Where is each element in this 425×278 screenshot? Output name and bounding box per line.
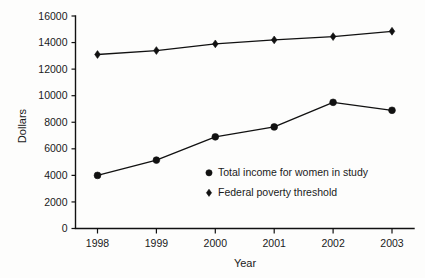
circle-marker xyxy=(206,170,212,176)
y-tick-label: 6000 xyxy=(44,142,68,154)
circle-marker xyxy=(271,123,278,130)
x-tick-label: 1999 xyxy=(145,237,169,249)
diamond-marker xyxy=(95,51,101,59)
y-tick-label: 4000 xyxy=(44,169,68,181)
series-layer xyxy=(94,27,395,178)
y-tick-label: 12000 xyxy=(38,63,67,75)
x-tick-label: 2003 xyxy=(380,237,404,249)
line-chart: 0200040006000800010000120001400016000 19… xyxy=(0,0,425,278)
diamond-marker xyxy=(389,27,395,35)
diamond-marker xyxy=(271,36,277,44)
diamond-marker xyxy=(212,40,218,48)
x-axis-title: Year xyxy=(234,257,257,269)
legend-label: Total income for women in study xyxy=(218,166,369,178)
y-tick-label: 8000 xyxy=(44,116,68,128)
y-axis-title: Dollars xyxy=(16,108,28,143)
x-axis-ticks xyxy=(98,229,393,234)
diamond-marker xyxy=(330,33,336,41)
y-tick-label: 16000 xyxy=(38,10,67,22)
x-axis-tick-labels: 199819992000200120022003 xyxy=(86,237,404,249)
y-axis-tick-labels: 0200040006000800010000120001400016000 xyxy=(38,10,67,235)
circle-marker xyxy=(330,99,337,106)
circle-marker xyxy=(389,107,396,114)
x-tick-label: 2002 xyxy=(321,237,345,249)
diamond-marker xyxy=(154,47,160,55)
circle-marker xyxy=(153,157,160,164)
legend-item: Total income for women in study xyxy=(206,166,369,178)
legend-item: Federal poverty threshold xyxy=(206,186,337,198)
y-tick-label: 0 xyxy=(62,222,68,234)
data-series-2 xyxy=(95,27,395,58)
series-line xyxy=(98,31,393,54)
x-tick-label: 2001 xyxy=(263,237,287,249)
y-tick-label: 2000 xyxy=(44,196,68,208)
diamond-marker xyxy=(206,189,211,196)
x-tick-label: 1998 xyxy=(86,237,110,249)
circle-marker xyxy=(94,172,101,179)
chart-legend: Total income for women in studyFederal p… xyxy=(206,166,369,198)
chart-figure: 0200040006000800010000120001400016000 19… xyxy=(0,0,425,278)
legend-label: Federal poverty threshold xyxy=(218,186,337,198)
x-tick-label: 2000 xyxy=(204,237,228,249)
y-tick-label: 10000 xyxy=(38,89,67,101)
series-line xyxy=(98,102,393,175)
y-tick-label: 14000 xyxy=(38,36,67,48)
circle-marker xyxy=(212,133,219,140)
